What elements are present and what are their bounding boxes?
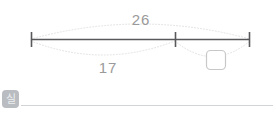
known-part-label: 17 xyxy=(99,59,118,76)
known-part-arc xyxy=(31,41,175,55)
footer-bar: 실 xyxy=(0,88,276,113)
total-label: 26 xyxy=(132,11,151,28)
answer-box[interactable] xyxy=(207,51,226,70)
bar-model-diagram: 26 17 xyxy=(0,0,276,92)
answer-badge-icon[interactable]: 실 xyxy=(2,90,19,108)
footer-divider xyxy=(21,105,273,106)
